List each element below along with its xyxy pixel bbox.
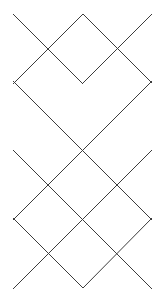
figure-background [0,0,165,291]
lattice-figure-canvas [0,0,165,291]
lattice-diagram [0,0,165,291]
